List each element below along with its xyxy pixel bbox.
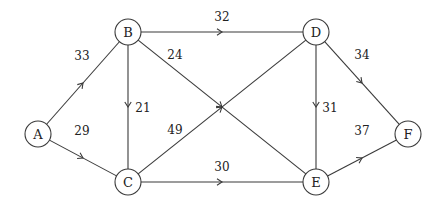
edge-weight-label: 21 bbox=[135, 101, 150, 115]
node-E: E bbox=[303, 169, 329, 195]
edge-weight-label: 33 bbox=[74, 49, 89, 63]
edge-weight-label: 37 bbox=[354, 124, 369, 138]
graph-diagram: 33292132244930313437 ABCDEF bbox=[0, 0, 440, 208]
edge-weight-label: 34 bbox=[354, 48, 370, 62]
edge-weight-label: 32 bbox=[214, 10, 229, 24]
graph-canvas: 33292132244930313437 ABCDEF bbox=[0, 0, 440, 208]
node-label: C bbox=[123, 175, 133, 190]
edge-A-C bbox=[49, 140, 116, 176]
node-B: B bbox=[115, 19, 141, 45]
node-label: B bbox=[123, 25, 133, 40]
edge-weight-label: 30 bbox=[214, 160, 229, 174]
edge-E-F bbox=[328, 140, 397, 176]
edge-B-D bbox=[141, 29, 303, 35]
node-label: F bbox=[403, 127, 412, 142]
node-label: A bbox=[32, 127, 43, 142]
edge-D-E bbox=[313, 45, 319, 169]
edge-weight-label: 24 bbox=[167, 48, 183, 62]
node-D: D bbox=[303, 19, 329, 45]
edge-B-C bbox=[125, 45, 131, 169]
node-F: F bbox=[395, 121, 421, 147]
edge-weight-label: 31 bbox=[322, 101, 337, 115]
node-C: C bbox=[115, 169, 141, 195]
edge-weight-label: 29 bbox=[74, 124, 89, 138]
node-label: D bbox=[311, 25, 321, 40]
node-label: E bbox=[311, 175, 321, 190]
node-A: A bbox=[25, 121, 51, 147]
edge-C-E bbox=[141, 179, 303, 185]
edge-weight-label: 49 bbox=[167, 123, 182, 137]
